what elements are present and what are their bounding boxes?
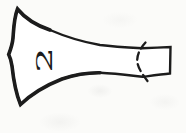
figure-canvas: 2 (0, 0, 186, 133)
artifact-drawing (0, 0, 186, 133)
figure-number-label: 2 (29, 34, 59, 87)
